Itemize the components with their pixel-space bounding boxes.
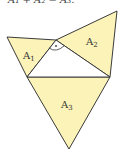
diagram: A1 A2 A3	[0, 0, 122, 153]
region-a3	[27, 77, 110, 149]
right-angle-dot-icon	[55, 45, 57, 47]
